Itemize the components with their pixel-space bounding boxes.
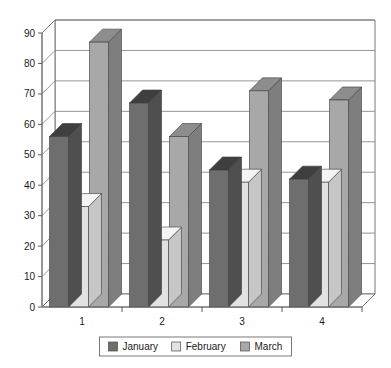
bar-side-march-1 [109,29,122,307]
x-tick-label: 2 [159,316,165,327]
x-tick-label: 4 [319,316,325,327]
bar-side-january-4 [309,166,322,307]
bar-side-february-1 [89,194,102,307]
bar-side-february-4 [329,169,342,307]
legend-swatch-march [241,342,250,351]
legend-swatch-february [172,342,181,351]
bar-january-2 [130,103,149,307]
bar-side-january-1 [69,124,82,307]
chart-container: 0102030405060708090 1234 JanuaryFebruary… [0,0,391,368]
bar-side-march-3 [269,78,282,307]
bar-side-february-3 [249,169,262,307]
legend-label-march: March [255,341,283,352]
bar-side-january-2 [149,90,162,307]
legend-label-february: February [186,341,226,352]
bar-side-february-2 [169,227,182,307]
chart-legend: JanuaryFebruaryMarch [100,337,292,356]
bar-side-january-3 [229,157,242,307]
x-tick-label: 3 [239,316,245,327]
y-tick-marks [38,33,42,307]
bar-january-4 [290,179,309,307]
y-tick-label: 60 [24,119,36,130]
y-tick-label: 40 [24,180,36,191]
bar-chart-3d: 0102030405060708090 1234 JanuaryFebruary… [0,0,391,368]
x-tick-marks [122,307,362,312]
x-axis-tick-labels: 1234 [79,316,325,327]
y-tick-label: 20 [24,241,36,252]
y-tick-label: 50 [24,149,36,160]
bar-side-march-4 [349,87,362,307]
y-tick-label: 90 [24,28,36,39]
bar-side-march-2 [189,124,202,307]
y-tick-label: 0 [29,302,35,313]
y-tick-label: 10 [24,271,36,282]
y-axis-tick-labels: 0102030405060708090 [24,28,36,313]
x-tick-label: 1 [79,316,85,327]
legend-label-january: January [123,341,159,352]
legend-swatch-january [109,342,118,351]
bar-january-1 [50,137,69,307]
bar-january-3 [210,170,229,307]
y-tick-label: 70 [24,88,36,99]
y-tick-label: 30 [24,210,36,221]
y-tick-label: 80 [24,58,36,69]
